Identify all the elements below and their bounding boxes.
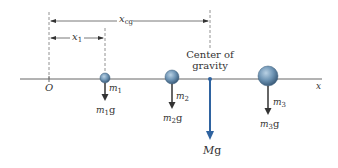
mass-2-ball xyxy=(165,70,179,84)
mass-3-ball xyxy=(258,66,278,86)
origin-label: O xyxy=(45,83,53,93)
cg-weight-arrow xyxy=(206,79,214,140)
cg-label: Center of gravity xyxy=(180,49,240,71)
m3g-label: m3g xyxy=(260,119,279,131)
m3-weight-arrow xyxy=(265,86,272,115)
m3-label: m3 xyxy=(273,98,286,109)
m1-weight-arrow xyxy=(102,83,109,101)
m2-weight-arrow xyxy=(169,84,176,109)
x1-label: x1 xyxy=(72,32,82,44)
m1-label: m1 xyxy=(109,84,122,95)
m2g-label: m2g xyxy=(163,113,182,125)
m1g-label: m1g xyxy=(96,105,115,117)
xcg-label: xcg xyxy=(119,14,133,26)
mg-label: Mg xyxy=(203,145,221,156)
m2-label: m2 xyxy=(176,92,189,103)
mass-1-ball xyxy=(100,73,110,83)
axis-x-label: x xyxy=(316,82,321,91)
